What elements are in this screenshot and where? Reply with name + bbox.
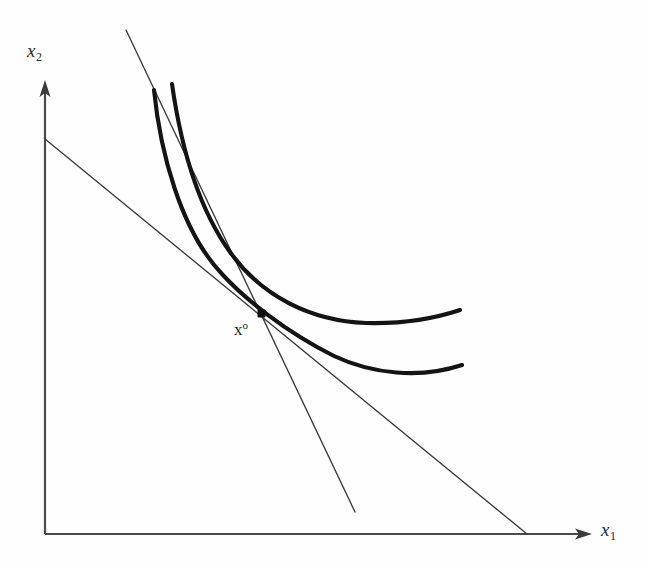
diagram-svg <box>0 0 647 563</box>
y-axis-label: x2 <box>27 40 41 62</box>
contour-curve-lower <box>154 90 462 373</box>
constraint-line-shallow <box>45 139 527 534</box>
x-axis-label-base: x <box>601 519 609 540</box>
x-axis-label-subscript: 1 <box>610 529 616 543</box>
optimum-point-marker <box>258 310 266 318</box>
optimum-point-label: xo <box>234 318 248 340</box>
constraint-line-steep <box>126 30 355 512</box>
optimum-label-superscript: o <box>243 319 249 331</box>
x-axis-label: x1 <box>601 519 615 541</box>
contour-curve-upper <box>172 84 460 323</box>
optimum-label-base: x <box>234 320 243 339</box>
figure-canvas: x2 x1 xo <box>0 0 647 563</box>
y-axis-label-subscript: 2 <box>36 50 42 64</box>
y-axis-label-base: x <box>27 40 35 61</box>
